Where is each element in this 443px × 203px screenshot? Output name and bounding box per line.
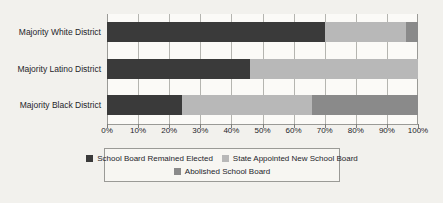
category-label: Majority Latino District — [17, 59, 107, 79]
legend-item[interactable]: State Appointed New School Board — [222, 154, 358, 164]
x-axis-tick-label: 30% — [192, 126, 208, 135]
category-label: Majority White District — [19, 22, 107, 42]
bar-segment[interactable] — [325, 22, 406, 42]
x-axis-tick-label: 20% — [161, 126, 177, 135]
chart-legend: School Board Remained ElectedState Appoi… — [104, 148, 340, 182]
x-axis-tick-labels: 0%10%20%30%40%50%60%70%80%90%100% — [107, 126, 418, 138]
legend-swatch-icon — [174, 168, 181, 175]
legend-item[interactable]: School Board Remained Elected — [86, 154, 213, 164]
legend-row-secondary: Abolished School Board — [110, 165, 334, 178]
legend-swatch-icon — [86, 155, 93, 162]
category-label: Majority Black District — [20, 95, 107, 115]
x-axis-tick-label: 0% — [101, 126, 113, 135]
plot-area-wrapper: Majority White DistrictMajority Latino D… — [107, 14, 418, 124]
x-axis-tick-label: 90% — [379, 126, 395, 135]
x-axis-tick-label: 60% — [286, 126, 302, 135]
legend-row-primary: School Board Remained ElectedState Appoi… — [110, 152, 334, 165]
bar-segment[interactable] — [107, 22, 325, 42]
stacked-bar[interactable] — [107, 95, 418, 115]
x-axis-tick-label: 70% — [317, 126, 333, 135]
legend-label: School Board Remained Elected — [97, 154, 213, 164]
stacked-bar[interactable] — [107, 59, 418, 79]
legend-item[interactable]: Abolished School Board — [174, 167, 270, 177]
stacked-bar[interactable] — [107, 22, 418, 42]
chart-category-row: Majority White District — [107, 14, 418, 51]
bar-segment[interactable] — [250, 59, 418, 79]
bar-segment[interactable] — [182, 95, 313, 115]
x-axis-tick-label: 40% — [223, 126, 239, 135]
bar-segment[interactable] — [107, 59, 250, 79]
chart-category-row: Majority Latino District — [107, 51, 418, 88]
x-axis-tick-label: 80% — [348, 126, 364, 135]
bar-segment[interactable] — [406, 22, 418, 42]
x-axis-tick-label: 100% — [408, 126, 428, 135]
bar-segment[interactable] — [107, 95, 182, 115]
stacked-bar-chart: Majority White DistrictMajority Latino D… — [0, 0, 443, 203]
chart-category-row: Majority Black District — [107, 87, 418, 124]
x-axis-tick-label: 50% — [254, 126, 270, 135]
legend-swatch-icon — [222, 155, 229, 162]
x-axis-tick-label: 10% — [130, 126, 146, 135]
legend-label: Abolished School Board — [185, 167, 270, 177]
legend-label: State Appointed New School Board — [233, 154, 358, 164]
bar-segment[interactable] — [312, 95, 418, 115]
